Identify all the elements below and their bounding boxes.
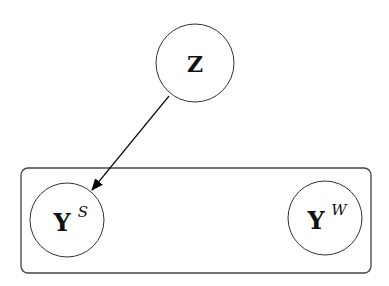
- node-yw-superscript: W: [331, 201, 348, 219]
- node-yw-label: Y: [306, 206, 325, 235]
- node-yw: Y W: [288, 181, 362, 255]
- node-ys-label: Y: [52, 208, 71, 237]
- edge-z-to-ys: [92, 96, 169, 190]
- node-ys: Y S: [30, 183, 104, 257]
- diagram-canvas: Z Y S Y W: [0, 0, 389, 286]
- node-z-label: Z: [187, 51, 203, 77]
- node-ys-superscript: S: [78, 203, 88, 221]
- node-z: Z: [156, 24, 234, 102]
